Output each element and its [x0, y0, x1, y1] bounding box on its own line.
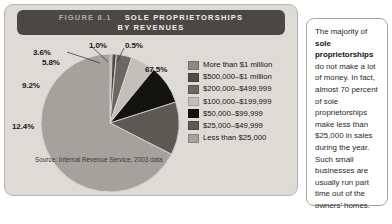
legend-item-label: $25,000–$49,999 — [203, 121, 263, 131]
chart-legend: More than $1 million$500,000–$1 million$… — [188, 60, 272, 143]
legend-item[interactable]: $25,000–$49,999 — [188, 121, 272, 131]
source-note: Source: Internal Revenue Service, 2003 d… — [35, 156, 163, 163]
side-commentary-emphasis: sole proprietorships — [315, 39, 373, 60]
legend-swatch-icon — [188, 134, 199, 143]
legend-swatch-icon — [188, 73, 199, 82]
legend-item-label: $500,000–$1 million — [203, 72, 272, 82]
legend-swatch-icon — [188, 61, 199, 70]
legend-item[interactable]: $500,000–$1 million — [188, 72, 272, 82]
figure-title-line-2: BY REVENUES — [118, 23, 185, 32]
legend-swatch-icon — [188, 109, 199, 118]
legend-item-label: $100,000–$199,999 — [203, 97, 271, 107]
pie-slice-group — [41, 54, 179, 192]
legend-item[interactable]: $100,000–$199,999 — [188, 97, 272, 107]
pie-label-67-5: 67.5% — [145, 65, 167, 74]
legend-item-label: Less than $25,000 — [203, 133, 266, 143]
legend-swatch-icon — [188, 121, 199, 130]
figure-title-line-1: FIGURE 8.1 SOLE PROPRIETORSHIPS — [59, 13, 244, 22]
figure-title-banner: FIGURE 8.1 SOLE PROPRIETORSHIPS BY REVEN… — [17, 10, 285, 35]
pie-label-0-5: 0.5% — [125, 41, 143, 50]
pie-label-12-4: 12.4% — [12, 122, 34, 131]
figure-title-main: SOLE PROPRIETORSHIPS — [125, 13, 244, 22]
side-commentary-text: The majority of sole proprietorships do … — [315, 26, 380, 212]
side-commentary-panel: The majority of sole proprietorships do … — [306, 18, 388, 206]
legend-swatch-icon — [188, 97, 199, 106]
figure-card: FIGURE 8.1 SOLE PROPRIETORSHIPS BY REVEN… — [4, 4, 298, 196]
pie-label-3-6: 3.6% — [33, 48, 51, 57]
legend-item-label: More than $1 million — [203, 60, 272, 70]
legend-item[interactable]: Less than $25,000 — [188, 133, 272, 143]
legend-item-label: $50,000–$99,999 — [203, 109, 263, 119]
pie-label-9-2: 9.2% — [22, 81, 40, 90]
pie-label-1-0: 1.0% — [89, 41, 107, 50]
pie-label-5-8: 5.8% — [42, 58, 60, 67]
legend-swatch-icon — [188, 85, 199, 94]
legend-item[interactable]: More than $1 million — [188, 60, 272, 70]
figure-number: FIGURE 8.1 — [59, 13, 112, 22]
legend-item[interactable]: $50,000–$99,999 — [188, 109, 272, 119]
legend-item-label: $200,000–$499,999 — [203, 84, 271, 94]
legend-item[interactable]: $200,000–$499,999 — [188, 84, 272, 94]
chart-plot-area: 0.5% 1.0% 3.6% 5.8% 9.2% 12.4% 67.5% Mor… — [5, 36, 298, 196]
